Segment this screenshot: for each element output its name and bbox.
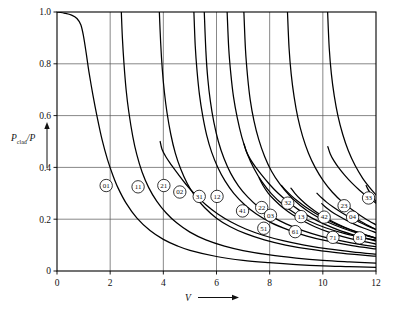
- mode-label-text: 42: [321, 213, 329, 221]
- mode-label-61: 61: [289, 225, 301, 237]
- x-tick-label: 10: [318, 278, 328, 288]
- mode-label-02: 02: [174, 186, 186, 198]
- mode-label-13: 13: [295, 210, 307, 222]
- x-tick-label: 4: [161, 278, 166, 288]
- mode-label-text: 71: [329, 234, 337, 242]
- mode-label-text: 33: [365, 194, 373, 202]
- mode-label-81: 81: [353, 232, 365, 244]
- mode-label-text: 03: [267, 212, 275, 220]
- x-tick-label: 8: [267, 278, 272, 288]
- mode-label-text: 23: [341, 202, 349, 210]
- y-tick-label: 0.4: [39, 163, 51, 173]
- mode-label-text: 21: [160, 182, 168, 190]
- mode-label-text: 51: [260, 225, 268, 233]
- mode-label-31: 31: [193, 190, 205, 202]
- mode-label-01: 01: [100, 179, 112, 191]
- y-tick-label: 0.2: [39, 215, 51, 225]
- mode-label-23: 23: [338, 200, 350, 212]
- mode-label-text: 61: [292, 228, 300, 236]
- mode-label-text: 11: [135, 183, 142, 191]
- mode-label-03: 03: [264, 209, 276, 221]
- cladding-power-chart: 01112102311241220351321361422304713381 0…: [0, 0, 394, 315]
- x-tick-label: 6: [214, 278, 219, 288]
- y-tick-label: 1.0: [39, 7, 51, 17]
- x-tick-label: 2: [108, 278, 113, 288]
- y-axis-title-sub: clad: [17, 139, 27, 145]
- mode-label-text: 02: [176, 188, 184, 196]
- x-tick-label: 12: [371, 278, 381, 288]
- mode-label-text: 12: [214, 193, 222, 201]
- chart-background: [0, 0, 394, 315]
- mode-label-11: 11: [132, 181, 144, 193]
- mode-label-text: 13: [298, 213, 306, 221]
- mode-label-12: 12: [211, 190, 223, 202]
- x-tick-label: 0: [55, 278, 60, 288]
- mode-label-text: 04: [349, 213, 357, 221]
- mode-label-text: 32: [284, 199, 292, 207]
- mode-label-text: 81: [356, 234, 364, 242]
- mode-label-41: 41: [236, 205, 248, 217]
- mode-label-text: 41: [239, 207, 247, 215]
- mode-label-32: 32: [282, 197, 294, 209]
- y-axis-title-tail: /P: [26, 133, 36, 143]
- y-tick-label: 0.8: [39, 59, 51, 69]
- mode-label-04: 04: [346, 211, 358, 223]
- y-tick-label: 0.6: [39, 111, 51, 121]
- mode-label-text: 22: [258, 204, 266, 212]
- mode-label-33: 33: [362, 192, 374, 204]
- mode-label-text: 31: [196, 193, 204, 201]
- mode-label-text: 01: [103, 182, 111, 190]
- mode-label-51: 51: [258, 222, 270, 234]
- y-tick-label: 0: [46, 266, 51, 276]
- mode-label-42: 42: [318, 211, 330, 223]
- mode-label-71: 71: [327, 231, 339, 243]
- mode-label-21: 21: [158, 179, 170, 191]
